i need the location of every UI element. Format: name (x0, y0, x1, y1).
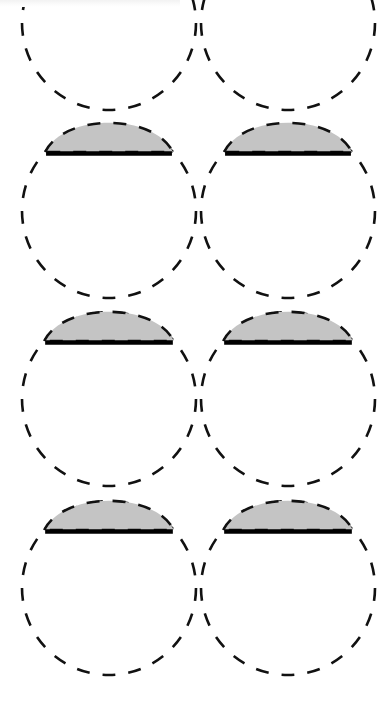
canvas-background (0, 0, 377, 704)
figure-root (0, 0, 377, 704)
dashed-circle-grid-canvas (0, 0, 377, 704)
